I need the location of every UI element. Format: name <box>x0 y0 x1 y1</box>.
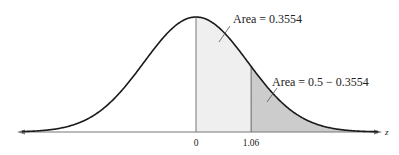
normal-curve-chart: Area = 0.3554 Area = 0.5 − 0.3554 0 1.06… <box>0 0 399 155</box>
label-area-tail: Area = 0.5 − 0.3554 <box>272 75 369 89</box>
shaded-area-0-to-1.06 <box>196 17 251 132</box>
axis-label-z: z <box>384 127 389 137</box>
tick-label-1.06: 1.06 <box>243 138 260 148</box>
label-area-center: Area = 0.3554 <box>233 12 302 26</box>
tick-label-zero: 0 <box>194 138 199 148</box>
